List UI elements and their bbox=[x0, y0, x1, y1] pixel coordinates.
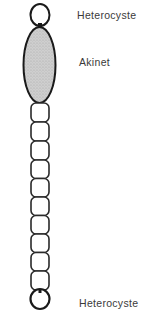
label-top-heterocyst: Heterocyste bbox=[77, 10, 136, 21]
bottom-heterocyst bbox=[31, 289, 50, 309]
filament-drawing bbox=[0, 0, 163, 327]
label-bottom-heterocyst: Heterocyste bbox=[79, 298, 138, 309]
vegetative-cells bbox=[31, 103, 49, 290]
filament-diagram: Heterocyste Akinet Heterocyste bbox=[0, 0, 163, 327]
top-heterocyst bbox=[31, 4, 50, 27]
polar-nodule-icon bbox=[39, 289, 42, 293]
akinete bbox=[24, 27, 56, 103]
label-akinete: Akinet bbox=[79, 57, 110, 68]
